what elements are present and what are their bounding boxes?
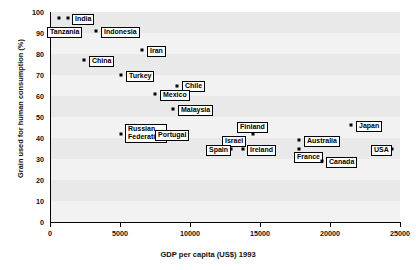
x-tick-mark bbox=[330, 223, 331, 227]
data-point-france bbox=[298, 147, 301, 150]
x-tick-mark bbox=[50, 223, 51, 227]
x-tick-label: 0 bbox=[48, 229, 52, 238]
data-point-chile bbox=[176, 84, 179, 87]
point-label-spain: Spain bbox=[206, 145, 231, 156]
data-point-tanzania bbox=[57, 17, 60, 20]
data-point-ireland bbox=[241, 147, 244, 150]
x-tick-label: 15000 bbox=[250, 229, 270, 238]
x-tick-mark bbox=[190, 223, 191, 227]
data-point-malaysia bbox=[172, 107, 175, 110]
point-label-portugal: Portugal bbox=[155, 130, 189, 141]
y-axis-title: Grain used for human consumption (%) bbox=[16, 14, 25, 204]
point-label-finland: Finland bbox=[237, 122, 268, 133]
point-label-iran: Iran bbox=[147, 46, 166, 57]
point-label-malaysia: Malaysia bbox=[178, 105, 213, 116]
point-label-australia: Australia bbox=[304, 136, 340, 147]
point-label-mexico: Mexico bbox=[160, 90, 190, 101]
point-label-china: China bbox=[89, 56, 114, 67]
scatter-chart: 100 90 80 70 60 50 40 30 20 10 0 Grain u… bbox=[0, 0, 416, 270]
x-tick-label: 20000 bbox=[320, 229, 340, 238]
data-point-turkey bbox=[120, 74, 123, 77]
x-tick-mark bbox=[120, 223, 121, 227]
x-axis-title: GDP per capita (US$) 1993 bbox=[0, 250, 416, 259]
point-label-russian-line1: Russian bbox=[128, 125, 155, 132]
point-label-usa: USA bbox=[371, 145, 392, 156]
data-point-canada bbox=[320, 160, 323, 163]
point-label-france: France bbox=[294, 152, 323, 163]
data-point-iran bbox=[141, 48, 144, 51]
point-label-canada: Canada bbox=[326, 157, 357, 168]
data-point-japan bbox=[350, 124, 353, 127]
x-tick-mark bbox=[260, 223, 261, 227]
point-label-tanzania: Tanzania bbox=[47, 27, 82, 38]
data-point-china bbox=[83, 59, 86, 62]
y-axis-ticks: 100 90 80 70 60 50 40 30 20 10 0 bbox=[0, 0, 416, 270]
data-point-russian-federation bbox=[119, 132, 122, 135]
point-label-turkey: Turkey bbox=[126, 71, 154, 82]
x-tick-mark bbox=[400, 223, 401, 227]
y-tick-label: 0 bbox=[18, 218, 44, 227]
point-label-japan: Japan bbox=[356, 121, 382, 132]
point-label-ireland: Ireland bbox=[247, 145, 276, 156]
point-label-india: India bbox=[72, 14, 94, 25]
x-tick-label: 5000 bbox=[112, 229, 128, 238]
data-point-mexico bbox=[154, 92, 157, 95]
data-point-india bbox=[66, 17, 69, 20]
data-point-australia bbox=[298, 139, 301, 142]
data-point-indonesia bbox=[95, 29, 98, 32]
x-tick-label: 25000 bbox=[390, 229, 410, 238]
x-tick-label: 10000 bbox=[180, 229, 200, 238]
point-label-indonesia: Indonesia bbox=[101, 27, 140, 38]
